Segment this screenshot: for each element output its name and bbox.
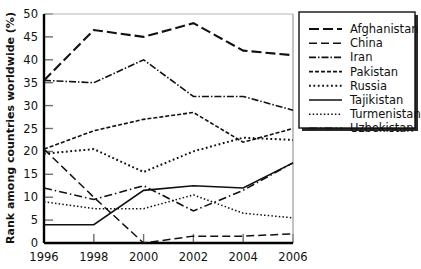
x-axis-tick-labels: 199619982000200220042006 [29,250,307,264]
y-tick-label: 40 [23,53,38,67]
y-tick-label: 20 [23,144,38,158]
y-tick-label: 10 [23,190,38,204]
legend-label-pakistan: Pakistan [350,65,398,79]
legend-label-russia: Russia [350,79,387,93]
legend-label-uzbekistan: Uzbekistan [350,121,414,135]
y-tick-label: 0 [31,236,38,250]
x-tick-label: 2002 [179,250,208,264]
y-tick-label: 25 [23,122,38,136]
chart-container: 05101520253035404550 1996199820002002200… [0,0,421,269]
x-tick-label: 2000 [129,250,158,264]
y-tick-label: 15 [23,167,38,181]
y-tick-label: 45 [23,30,38,44]
plot-background [44,14,293,243]
legend-label-tajikistan: Tajikistan [349,93,403,107]
legend-label-iran: Iran [350,50,372,64]
x-tick-label: 2006 [278,250,307,264]
line-chart: 05101520253035404550 1996199820002002200… [0,0,421,269]
x-tick-label: 1996 [29,250,58,264]
legend-label-turmenistan: Turmenistan [349,107,421,121]
legend: AfghanistanChinaIranPakistanRussiaTajiki… [299,12,421,135]
y-tick-label: 5 [31,213,38,227]
y-tick-label: 50 [23,7,38,21]
y-axis-title: Rank among countries worldwide (%) [4,12,17,244]
x-tick-label: 1998 [79,250,108,264]
legend-label-china: China [350,36,383,50]
legend-label-afghanistan: Afghanistan [350,22,418,36]
x-tick-label: 2004 [229,250,258,264]
y-tick-label: 30 [23,99,38,113]
y-tick-label: 35 [23,76,38,90]
y-axis-tick-labels: 05101520253035404550 [23,7,38,250]
